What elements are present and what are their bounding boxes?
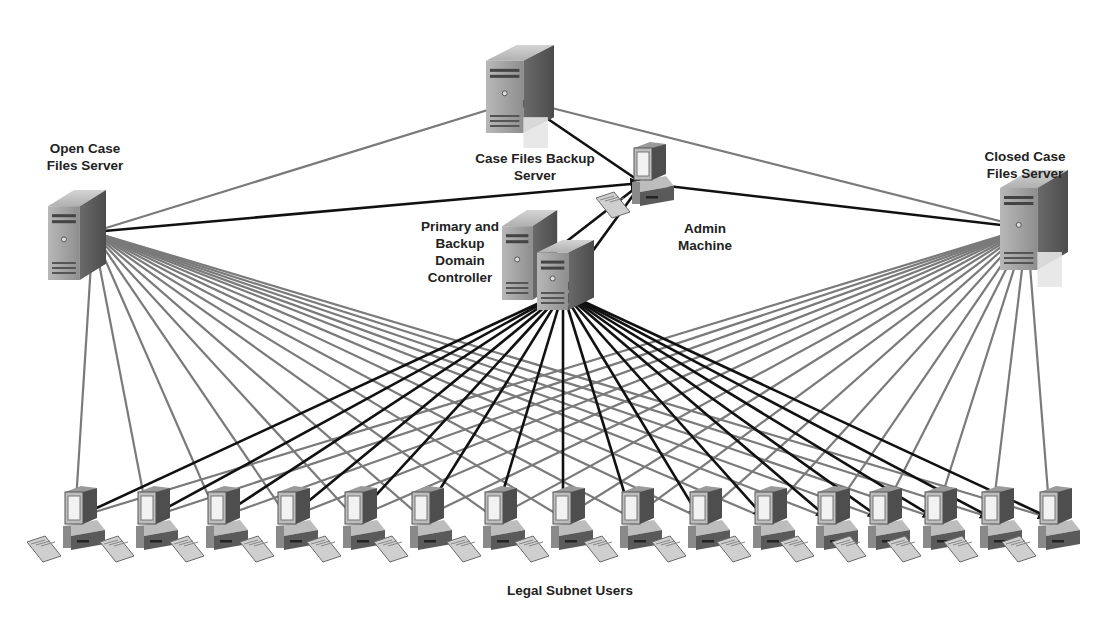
legal-subnet-users-label: Legal Subnet Users	[470, 582, 670, 599]
user-workstation-icon	[100, 486, 178, 562]
user-workstation-icon	[515, 486, 593, 562]
user-link	[495, 292, 563, 518]
domain-controller-label: Primary and Backup Domain Controller	[400, 218, 520, 286]
user-workstation-icon	[374, 486, 452, 562]
closed-server-label: Closed Case Files Server	[965, 148, 1085, 182]
network-diagram	[0, 0, 1112, 624]
backup-server-label: Case Files Backup Server	[455, 150, 615, 184]
user-link	[93, 232, 355, 518]
user-workstation-icon	[652, 486, 730, 562]
user-link	[93, 232, 218, 518]
case-files-backup-server-icon	[486, 45, 554, 148]
admin-machine-label: Admin Machine	[660, 220, 750, 254]
user-workstation-icon	[307, 486, 385, 562]
user-workstation-icon	[170, 486, 248, 562]
user-link	[288, 292, 563, 518]
user-link	[563, 292, 765, 518]
user-workstation-icon	[717, 486, 795, 562]
backup-domain-controller-icon	[537, 240, 594, 310]
user-link	[563, 292, 700, 518]
open-case-files-server-icon	[48, 190, 106, 280]
user-link	[563, 292, 880, 518]
user-link	[93, 232, 148, 518]
closed-case-files-server-icon	[1000, 170, 1068, 287]
user-workstation-icon	[447, 486, 525, 562]
user-workstation-icon	[27, 486, 105, 562]
open-server-label: Open Case Files Server	[30, 140, 140, 174]
